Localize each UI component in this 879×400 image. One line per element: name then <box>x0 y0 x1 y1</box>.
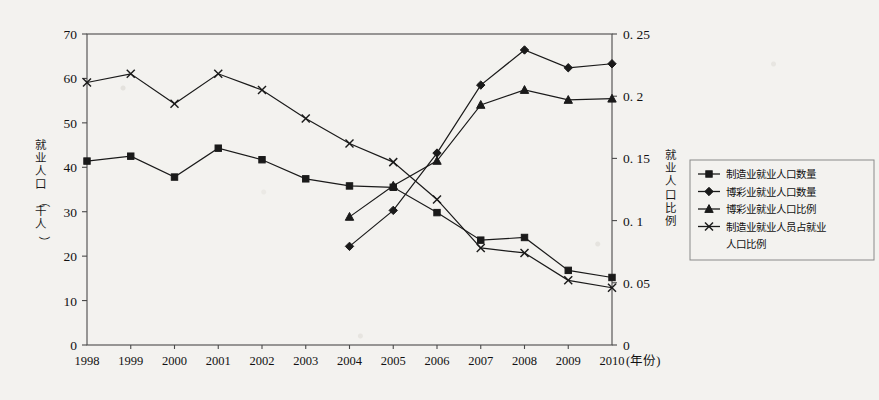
svg-text:人: 人 <box>35 164 47 178</box>
y2-axis-tick-label: 0. 1 <box>623 214 643 229</box>
svg-text:例: 例 <box>665 214 676 228</box>
legend-entry: 制造业就业人口数量 <box>698 168 817 180</box>
data-point <box>259 157 265 163</box>
x-axis-tick-label: 2005 <box>381 354 406 368</box>
y-axis-tick-label: 30 <box>64 205 78 220</box>
legend-label: 制造业就业人员占就业 <box>726 221 826 233</box>
x-axis-tick-label: 2006 <box>425 354 450 368</box>
svg-text:口: 口 <box>35 177 46 191</box>
svg-text:就: 就 <box>35 138 47 152</box>
data-point <box>346 183 352 189</box>
y-axis-tick-label: 50 <box>64 116 78 131</box>
svg-text:业: 业 <box>35 151 46 165</box>
data-point <box>303 176 309 182</box>
data-point <box>609 274 615 280</box>
y-axis-tick-label: 10 <box>64 294 78 309</box>
series-4 <box>83 70 616 292</box>
legend-label: 制造业就业人口数量 <box>726 168 817 180</box>
series-line <box>350 50 613 246</box>
data-point <box>345 212 353 220</box>
y-axis-tick-label: 40 <box>64 160 78 175</box>
legend-entry: 制造业就业人员占就业 <box>698 221 826 233</box>
y2-axis-title: 就业人口比例 <box>665 148 677 228</box>
svg-text:千: 千 <box>35 204 46 218</box>
series-line <box>87 74 612 288</box>
x-axis-tick-label: 2008 <box>512 354 537 368</box>
y2-axis-tick-label: 0. 25 <box>623 27 650 42</box>
legend-label: 博彩业就业人口比例 <box>726 203 816 215</box>
data-point <box>434 209 440 215</box>
data-point <box>258 86 266 94</box>
data-point <box>433 195 441 203</box>
y-axis-tick-label: 0 <box>70 338 77 353</box>
series-3 <box>345 86 616 221</box>
y-axis-tick-label: 60 <box>64 71 78 86</box>
x-axis-tick-label: 2001 <box>206 354 231 368</box>
data-point <box>389 158 397 166</box>
y2-axis-tick-label: 0 <box>623 338 630 353</box>
x-axis-tick-label: 2010 <box>600 354 625 368</box>
data-point <box>608 60 616 68</box>
y2-axis-tick-label: 0. 15 <box>623 151 650 166</box>
data-point <box>171 174 177 180</box>
data-point <box>565 267 571 273</box>
x-axis-tick-label: 1998 <box>75 354 100 368</box>
data-point <box>215 145 221 151</box>
x-axis-tick-label: 2002 <box>250 354 275 368</box>
series-line <box>350 90 613 217</box>
legend-entry: 博彩业就业人口数量 <box>698 186 817 198</box>
y-axis-tick-label: 70 <box>64 27 78 42</box>
x-axis-tick-label: 2000 <box>162 354 187 368</box>
x-axis-tick-label: 2009 <box>556 354 581 368</box>
x-axis-tick-label: 1999 <box>118 354 143 368</box>
svg-text:就: 就 <box>665 148 677 162</box>
svg-text:比: 比 <box>665 201 676 215</box>
y2-axis-tick-label: 0. 05 <box>623 276 650 291</box>
data-point <box>520 86 528 94</box>
x-axis-tick-label: 2004 <box>337 354 363 368</box>
data-point <box>214 70 222 78</box>
data-point <box>564 64 572 72</box>
y2-axis-tick-label: 0. 2 <box>623 89 643 104</box>
svg-text:业: 业 <box>665 161 676 175</box>
legend-label: 博彩业就业人口数量 <box>726 186 817 198</box>
svg-text:人: 人 <box>35 217 47 231</box>
chart-figure: 01020304050607000. 050. 10. 150. 20. 251… <box>0 0 879 400</box>
data-point <box>128 153 134 159</box>
legend-marker-square <box>706 171 712 177</box>
data-point <box>302 115 310 123</box>
y-axis-tick-label: 20 <box>64 249 78 264</box>
data-point <box>171 100 179 108</box>
svg-text:人: 人 <box>665 174 677 188</box>
series-2 <box>345 46 616 251</box>
legend-entry: 博彩业就业人口比例 <box>698 203 816 215</box>
legend-entry: 人口比例 <box>726 238 766 250</box>
y-axis-title: 就业人口（千人） <box>35 138 52 247</box>
x-axis-tick-label: 2003 <box>293 354 318 368</box>
data-point <box>521 234 527 240</box>
legend-label: 人口比例 <box>726 238 766 250</box>
x-axis-tick-label: 2007 <box>468 354 493 368</box>
x-axis-title: (年份) <box>626 354 660 368</box>
legend-marker-diamond <box>705 187 713 195</box>
svg-text:）: ） <box>37 236 51 247</box>
data-point <box>478 237 484 243</box>
data-point <box>84 158 90 164</box>
line-chart: 01020304050607000. 050. 10. 150. 20. 251… <box>0 0 879 400</box>
data-point <box>346 139 354 147</box>
svg-text:口: 口 <box>665 188 676 202</box>
